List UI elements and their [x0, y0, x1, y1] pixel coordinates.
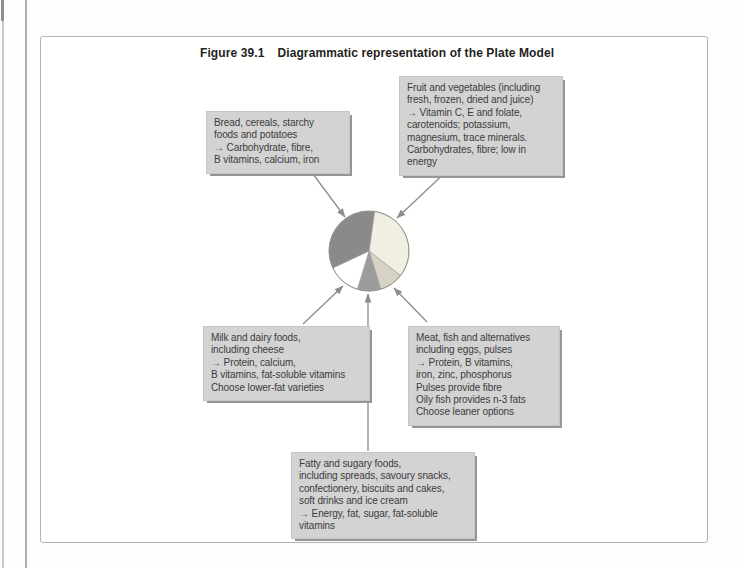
- box-text-line: including eggs, pulses: [416, 344, 552, 356]
- box-text-line: vitamins: [299, 520, 467, 532]
- box-text-line: B vitamins, calcium, iron: [214, 154, 342, 166]
- box-text-line: Choose leaner options: [416, 406, 552, 418]
- box-text-line: confectionery, biscuits and cakes,: [299, 483, 467, 495]
- box-text-line: → Energy, fat, sugar, fat-soluble: [299, 508, 467, 520]
- box-text-line: Milk and dairy foods,: [211, 332, 362, 344]
- box-text-line: including spreads, savoury snacks,: [299, 470, 467, 482]
- box-text-line: → Carbohydrate, fibre,: [214, 142, 342, 154]
- figure-caption: Diagrammatic representation of the Plate…: [277, 46, 554, 60]
- figure-label: Figure 39.1: [200, 46, 264, 60]
- box-text-line: Carbohydrates, fibre; low in: [407, 144, 555, 156]
- box-text-line: including cheese: [211, 344, 362, 356]
- box-text-line: Fruit and vegetables (including: [407, 82, 555, 94]
- box-text-line: → Vitamin C, E and folate,: [407, 107, 555, 119]
- milk-dairy-box: Milk and dairy foods,including cheese→ P…: [203, 326, 370, 401]
- box-text-line: Oily fish provides n-3 fats: [416, 394, 552, 406]
- box-text-line: Choose lower-fat varieties: [211, 382, 362, 394]
- box-text-line: Pulses provide fibre: [416, 382, 552, 394]
- box-text-line: fresh, frozen, dried and juice): [407, 94, 555, 106]
- box-text-line: foods and potatoes: [214, 129, 342, 141]
- bread-cereals-box: Bread, cereals, starchyfoods and potatoe…: [206, 111, 350, 174]
- box-text-line: carotenoids; potassium,: [407, 119, 555, 131]
- box-text-line: Bread, cereals, starchy: [214, 117, 342, 129]
- box-text-line: → Protein, calcium,: [211, 357, 362, 369]
- box-text-line: energy: [407, 156, 555, 168]
- box-text-line: → Protein, B vitamins,: [416, 357, 552, 369]
- arrow-milk-to-pie: [303, 286, 343, 324]
- box-text-line: Fatty and sugary foods,: [299, 458, 467, 470]
- meat-fish-box: Meat, fish and alternativesincluding egg…: [408, 326, 560, 426]
- box-text-line: iron, zinc, phosphorus: [416, 369, 552, 381]
- box-text-line: Meat, fish and alternatives: [416, 332, 552, 344]
- arrow-bread-to-pie: [310, 170, 345, 217]
- scanned-page: Figure 39.1Diagrammatic representation o…: [0, 0, 744, 568]
- fatty-sugary-box: Fatty and sugary foods,including spreads…: [291, 452, 475, 539]
- box-text-line: magnesium, trace minerals.: [407, 132, 555, 144]
- box-text-line: soft drinks and ice cream: [299, 495, 467, 507]
- arrow-meat-to-pie: [394, 288, 427, 322]
- box-text-line: B vitamins, fat-soluble vitamins: [211, 369, 362, 381]
- fruit-vegetables-box: Fruit and vegetables (includingfresh, fr…: [399, 76, 563, 176]
- figure-title: Figure 39.1Diagrammatic representation o…: [200, 46, 554, 60]
